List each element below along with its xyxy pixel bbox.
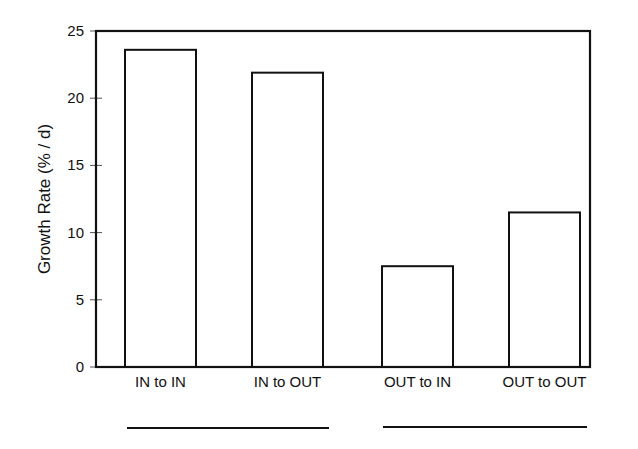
y-tick-label: 5: [76, 291, 84, 308]
y-tick-label: 15: [67, 156, 84, 173]
bars: [125, 50, 580, 367]
y-tick-label: 25: [67, 22, 84, 39]
x-category-label: IN to OUT: [254, 373, 322, 390]
y-axis-title: Growth Rate (% / d): [35, 124, 54, 274]
bar: [125, 50, 196, 367]
x-category-label: OUT to OUT: [503, 373, 587, 390]
x-category-label: IN to IN: [135, 373, 186, 390]
x-axis-category-labels: IN to ININ to OUTOUT to INOUT to OUT: [135, 373, 586, 390]
bar: [252, 73, 323, 367]
y-tick-label: 10: [67, 224, 84, 241]
bar: [382, 266, 453, 367]
y-tick-label: 20: [67, 89, 84, 106]
x-category-label: OUT to IN: [384, 373, 451, 390]
y-tick-label: 0: [76, 358, 84, 375]
bar: [509, 212, 580, 367]
bar-chart: 0510152025 IN to ININ to OUTOUT to INOUT…: [0, 0, 638, 449]
